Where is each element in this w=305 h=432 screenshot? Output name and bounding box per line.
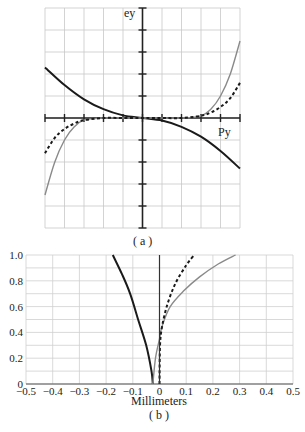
y-tick-label: 0.4 bbox=[9, 326, 23, 338]
figure: ey Py ( a ) −0.5−0.4−0.3−0.2−0.100.10.20… bbox=[0, 0, 305, 432]
x-tick-label: 0.4 bbox=[259, 385, 273, 397]
y-tick-label: 0.2 bbox=[9, 352, 23, 364]
x-tick-label: −0.2 bbox=[96, 385, 116, 397]
x-tick-label: 0.5 bbox=[286, 385, 300, 397]
chart-a-caption: ( a ) bbox=[133, 234, 152, 248]
chart-b: −0.5−0.4−0.3−0.2−0.100.10.20.30.40.500.2… bbox=[9, 249, 300, 397]
chart-a bbox=[45, 8, 240, 228]
x-tick-label: −0.4 bbox=[43, 385, 63, 397]
y-tick-label: 1.0 bbox=[9, 249, 23, 261]
y-tick-label: 0.6 bbox=[9, 301, 23, 313]
chart-b-xlabel: Millimeters bbox=[131, 394, 187, 408]
y-tick-label: 0 bbox=[18, 378, 24, 390]
chart-b-caption: ( b ) bbox=[149, 408, 169, 422]
y-tick-label: 0.8 bbox=[9, 275, 23, 287]
x-tick-label: 0.2 bbox=[206, 385, 220, 397]
x-tick-label: −0.3 bbox=[69, 385, 89, 397]
chart-a-ylabel: ey bbox=[124, 6, 135, 20]
x-tick-label: 0.3 bbox=[233, 385, 247, 397]
chart-a-xlabel: Py bbox=[218, 125, 231, 139]
